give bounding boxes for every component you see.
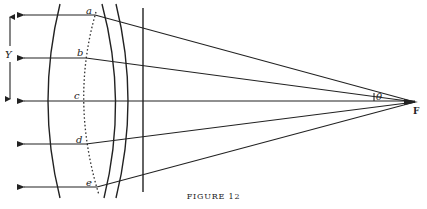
label-Y: Y [5, 49, 13, 60]
label-e: e [86, 177, 92, 188]
focal-point-marker [404, 99, 418, 105]
wavefront-dashed-curve [84, 12, 99, 195]
lens-focus-diagram: a b c d e Y θ F [0, 0, 427, 209]
label-F: F [413, 106, 420, 116]
ray-b [24, 58, 415, 102]
label-a: a [86, 5, 92, 16]
label-theta: θ [376, 91, 382, 102]
figure-caption: FIGURE 12 [0, 192, 427, 201]
label-b: b [77, 47, 83, 58]
label-d: d [76, 134, 82, 145]
ray-d [24, 102, 415, 144]
label-c: c [74, 90, 80, 101]
